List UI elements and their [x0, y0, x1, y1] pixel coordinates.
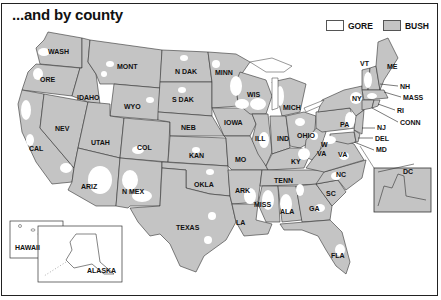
label-ri: RI — [397, 107, 404, 114]
label-ohio: OHIO — [297, 132, 315, 139]
label-s-dak: S DAK — [172, 96, 194, 103]
label-wis: WIS — [247, 91, 261, 98]
label-nj: NJ — [377, 124, 386, 131]
label-ill: ILL — [255, 135, 266, 142]
label-ind: IND — [277, 135, 289, 142]
state-col — [120, 118, 170, 162]
label-wash: WASH — [48, 48, 69, 55]
state-conn — [362, 100, 374, 110]
label-kan: KAN — [189, 152, 204, 159]
label-va: VA — [338, 151, 347, 158]
label-alaska: ALASKA — [87, 267, 116, 274]
label-w-va-line2: VA — [317, 150, 326, 157]
label-nh: NH — [400, 83, 410, 90]
label-pa: PA — [340, 121, 349, 128]
label-ny: NY — [352, 95, 362, 102]
label-iowa: IOWA — [224, 119, 243, 126]
label-dc: DC — [403, 168, 413, 175]
label-ga: GA — [309, 205, 320, 212]
label-n-dak: N DAK — [175, 68, 197, 75]
label-neb: NEB — [181, 124, 196, 131]
lake-michigan — [272, 78, 278, 110]
label-conn: CONN — [400, 119, 421, 126]
label-fla: FLA — [331, 252, 345, 259]
label-col: COL — [137, 144, 153, 151]
label-wyo: WYO — [124, 103, 141, 110]
label-mont: MONT — [117, 63, 138, 70]
lake-superior — [250, 58, 292, 72]
label-me: ME — [387, 63, 398, 70]
label-mich: MICH — [283, 104, 301, 111]
label-mass: MASS — [403, 94, 424, 101]
label-idaho: IDAHO — [77, 94, 100, 101]
label-texas: TEXAS — [176, 224, 200, 231]
label-vt: VT — [360, 60, 370, 67]
label-sc: SC — [326, 190, 336, 197]
label-okla: OKLA — [194, 181, 214, 188]
label-ore: ORE — [40, 76, 56, 83]
label-ala: ALA — [280, 208, 294, 215]
label-nc: NC — [336, 171, 346, 178]
label-utah: UTAH — [91, 139, 110, 146]
dc-inset — [360, 146, 431, 212]
label-nev: NEV — [55, 125, 70, 132]
label-mo: MO — [235, 156, 247, 163]
label-ariz: ARIZ — [81, 183, 98, 190]
label-la: LA — [236, 219, 245, 226]
label-tenn: TENN — [274, 177, 293, 184]
label-miss: MISS — [254, 201, 271, 208]
label-ark: ARK — [235, 187, 250, 194]
state-n-dak — [160, 50, 212, 82]
label-hawaii: HAWAII — [15, 244, 40, 251]
label-minn: MINN — [215, 69, 233, 76]
us-county-map: WASH ORE IDAHO MONT WYO N DAK S DAK MINN… — [0, 0, 441, 300]
label-ky: KY — [291, 158, 301, 165]
label-n-mex: N MEX — [122, 188, 145, 195]
label-del: DEL — [375, 135, 390, 142]
label-md: MD — [376, 146, 387, 153]
label-w-va-line1: W — [321, 141, 328, 148]
label-cal: CAL — [29, 145, 44, 152]
